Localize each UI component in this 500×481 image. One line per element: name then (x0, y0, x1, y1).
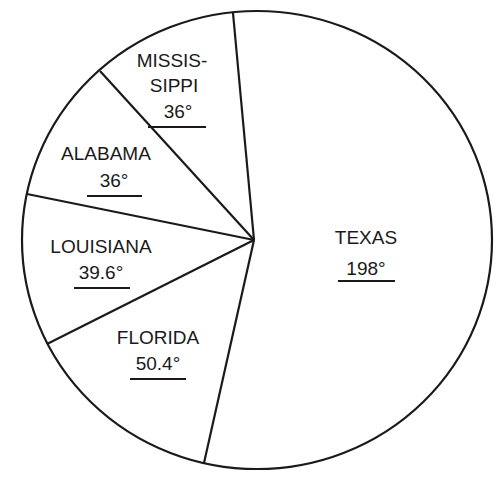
divider-florida-texas (204, 240, 254, 463)
slice-mississippi: MISSIS- SIPPI 36° (137, 50, 208, 127)
slice-alabama: ALABAMA 36° (61, 143, 151, 196)
slice-texas: TEXAS 198° (335, 227, 397, 281)
slice-florida: FLORIDA 50.4° (117, 327, 200, 379)
slice-alabama-name: ALABAMA (61, 143, 151, 164)
pie-chart: MISSIS- SIPPI 36° ALABAMA 36° LOUISIANA … (0, 0, 500, 481)
slice-louisiana-value: 39.6° (79, 262, 124, 283)
slice-louisiana: LOUISIANA 39.6° (50, 236, 152, 288)
slice-florida-name: FLORIDA (117, 327, 200, 348)
divider-texas-mississippi (233, 13, 254, 240)
divider-alabama-louisiana (27, 194, 254, 240)
slice-texas-name: TEXAS (335, 227, 397, 248)
slice-mississippi-name-2: SIPPI (150, 75, 199, 96)
slice-alabama-value: 36° (100, 170, 129, 191)
slice-mississippi-name-1: MISSIS- (137, 50, 208, 71)
slice-mississippi-value: 36° (164, 101, 193, 122)
slice-florida-value: 50.4° (136, 353, 181, 374)
slice-texas-value: 198° (346, 258, 385, 279)
slice-louisiana-name: LOUISIANA (50, 236, 152, 257)
